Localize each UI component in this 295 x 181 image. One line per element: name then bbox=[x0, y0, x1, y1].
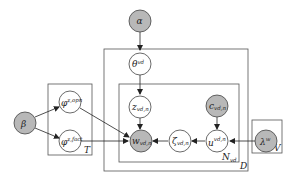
node-z: zvd,n bbox=[129, 96, 151, 118]
plate-T-label: T bbox=[84, 145, 91, 155]
graphical-model-diagram: D Nvd T V α θvd zvd,n cvd,n β φz,opn φz,… bbox=[0, 0, 295, 181]
plate-D-label: D bbox=[239, 161, 247, 171]
node-beta: β bbox=[14, 112, 36, 134]
plate-N-label: Nvd bbox=[221, 152, 237, 163]
node-theta: θvd bbox=[129, 53, 151, 75]
edge-beta-phi-topic bbox=[35, 107, 59, 117]
edge-phi-topic-w bbox=[80, 108, 129, 137]
node-phi-fact: φz,fact bbox=[59, 130, 83, 152]
node-zeta: ζvd,n bbox=[169, 130, 191, 152]
node-c: cvd,n bbox=[206, 95, 228, 117]
edge-beta-phi-fact bbox=[35, 128, 59, 138]
node-alpha: α bbox=[129, 10, 151, 32]
node-w: wvd,n bbox=[130, 130, 152, 152]
node-u: uvd,n bbox=[206, 130, 228, 152]
svg-text:β: β bbox=[20, 119, 26, 129]
node-phi-topic: φz,opn bbox=[59, 91, 83, 113]
node-lambda: λw bbox=[255, 130, 277, 152]
svg-text:α: α bbox=[137, 16, 143, 26]
